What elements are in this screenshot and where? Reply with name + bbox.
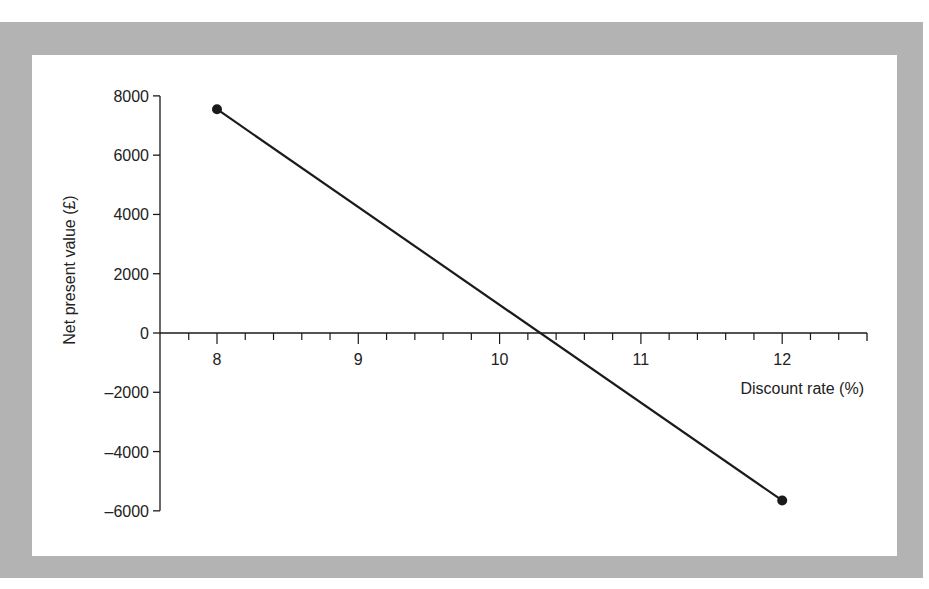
data-point-marker	[212, 104, 222, 114]
data-point-marker	[777, 495, 787, 505]
x-tick-label: 10	[491, 351, 509, 368]
x-tick-label: 12	[773, 351, 791, 368]
npv-line-chart: 80006000400020000–2000–4000–6000 8910111…	[0, 0, 929, 589]
y-tick-label: 4000	[113, 206, 149, 223]
y-tick-label: 8000	[113, 88, 149, 105]
series-npv	[212, 104, 787, 505]
y-tick-label: –4000	[105, 444, 150, 461]
x-tick-label: 9	[354, 351, 363, 368]
npv-line	[217, 109, 782, 500]
y-tick-label: –6000	[105, 503, 150, 520]
y-tick-label: –2000	[105, 384, 150, 401]
y-axis: 80006000400020000–2000–4000–6000	[105, 88, 161, 520]
x-axis-title: Discount rate (%)	[740, 380, 864, 397]
x-tick-label: 8	[213, 351, 222, 368]
x-axis: 89101112	[160, 333, 867, 368]
y-tick-label: 6000	[113, 147, 149, 164]
y-tick-label: 0	[140, 325, 149, 342]
y-tick-label: 2000	[113, 266, 149, 283]
x-tick-label: 11	[633, 351, 650, 368]
y-axis-title: Net present value (£)	[61, 195, 78, 344]
